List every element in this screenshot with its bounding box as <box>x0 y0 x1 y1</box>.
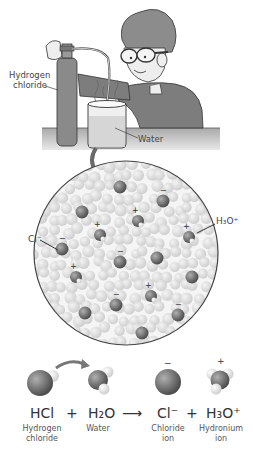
proton-transfer-arrow <box>56 362 84 368</box>
name-hydronium-ion: Hydronium ion <box>196 424 246 444</box>
minus-charge-icon: − <box>59 234 66 243</box>
ion-particle <box>151 252 164 265</box>
chloride-charge: − <box>164 358 172 368</box>
plus-charge-icon: + <box>183 222 190 231</box>
plus-charge-icon: + <box>94 220 101 229</box>
equation-molecules <box>27 359 234 396</box>
person-arm <box>78 74 130 100</box>
formula-h2o: H₂O <box>88 405 115 421</box>
minus-charge-icon: − <box>175 300 182 309</box>
name-hydrogen-chloride: Hydrogen chloride <box>20 424 64 444</box>
plus-charge-icon: + <box>70 262 77 271</box>
reaction-arrow: ⟶ <box>122 405 142 421</box>
name-chloride-line1: Chloride <box>148 424 188 434</box>
magnified-solution: −+++−−++−− <box>22 157 230 349</box>
name-hydronium-line2: ion <box>196 434 246 444</box>
name-water-line1: Water <box>78 424 118 434</box>
hcl-molecule <box>27 370 59 396</box>
water-molecule <box>88 367 114 395</box>
name-chloride-line2: ion <box>148 434 188 444</box>
ion-particle <box>76 206 89 219</box>
ion-particle <box>136 327 149 340</box>
plus-sign-1: + <box>66 405 78 421</box>
plus-charge-icon: + <box>145 281 152 290</box>
formula-chloride: Cl⁻ <box>157 405 178 421</box>
label-chloride-line2: chloride <box>9 80 50 90</box>
label-water: Water <box>138 134 163 144</box>
chloride-ion <box>172 309 185 322</box>
plus-charge-icon: + <box>132 206 139 215</box>
chloride-ion <box>157 195 170 208</box>
name-hcl-line1: Hydrogen <box>20 424 64 434</box>
ion-particle <box>114 181 127 194</box>
label-hydrogen-chloride: Hydrogen chloride <box>9 70 50 90</box>
hydronium-charge: + <box>217 356 225 366</box>
ion-particle <box>186 271 199 284</box>
beaker <box>88 101 126 149</box>
label-chloride-ion: Cl⁻ <box>28 234 42 244</box>
chloride-ion <box>110 299 123 312</box>
chloride-ion <box>114 256 127 269</box>
gas-cylinder <box>57 58 77 146</box>
diagram-canvas: −+++−−++−− <box>0 0 253 456</box>
lab-scene <box>42 9 220 150</box>
ion-particle <box>79 307 92 320</box>
formula-hcl: HCl <box>30 405 54 421</box>
chloride-ion <box>56 243 69 256</box>
formula-hydronium: H₃O⁺ <box>206 405 241 421</box>
chloride-ion-molecule <box>155 369 181 395</box>
label-hydrogen-line1: Hydrogen <box>9 70 50 80</box>
name-water: Water <box>78 424 118 434</box>
minus-charge-icon: − <box>160 186 167 195</box>
label-hydronium-ion: H₃O⁺ <box>216 216 238 226</box>
minus-charge-icon: − <box>117 247 124 256</box>
name-chloride-ion: Chloride ion <box>148 424 188 444</box>
name-hcl-line2: chloride <box>20 434 64 444</box>
plus-sign-2: + <box>186 405 198 421</box>
minus-charge-icon: − <box>113 290 120 299</box>
hydronium-ion-molecule <box>207 369 234 395</box>
name-hydronium-line1: Hydronium <box>196 424 246 434</box>
